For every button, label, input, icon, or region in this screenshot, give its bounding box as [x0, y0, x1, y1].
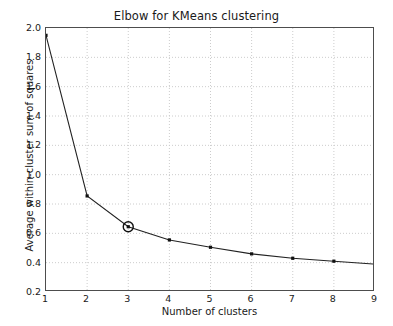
x-tick-label: 2	[71, 293, 101, 304]
x-tick-label: 7	[277, 293, 307, 304]
x-tick-label: 1	[30, 293, 60, 304]
x-tick-label: 4	[153, 293, 183, 304]
y-axis-label: Average within-cluster sum of squares	[24, 46, 35, 266]
chart-figure: Elbow for KMeans clustering 0.20.40.60.8…	[0, 0, 393, 326]
x-tick-label: 8	[318, 293, 348, 304]
x-tick-label: 9	[359, 293, 389, 304]
x-tick-label: 5	[195, 293, 225, 304]
x-tick-label: 6	[236, 293, 266, 304]
x-axis-label: Number of clusters	[45, 306, 374, 317]
x-tick-label: 3	[112, 293, 142, 304]
y-axis-label-wrap: Average within-cluster sum of squares	[0, 0, 1, 326]
x-axis-tick-labels: 123456789	[0, 0, 393, 326]
